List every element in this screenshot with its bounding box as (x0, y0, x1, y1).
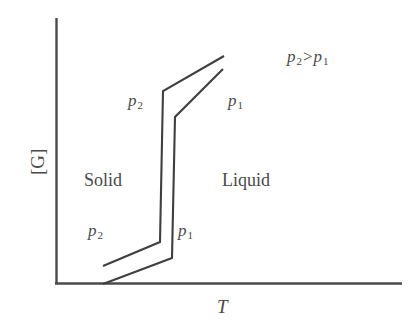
lower-p1-symbol: p (178, 221, 187, 240)
lower-p2-subscript: 2 (97, 229, 104, 241)
lower-p1-subscript: 1 (187, 229, 194, 241)
inequality-right-symbol: p (314, 47, 323, 66)
x-axis-title: T (217, 297, 228, 316)
inequality-right-subscript: 1 (322, 55, 329, 67)
plot-area (0, 0, 419, 331)
inequality-left-subscript: 2 (296, 55, 303, 67)
gibbs-energy-temperature-diagram: p2>p1 p2 p1 Solid Liquid p2 p1 [G] T (0, 0, 419, 331)
phase-label-liquid: Liquid (222, 171, 270, 189)
inequality-left-symbol: p (287, 47, 296, 66)
pressure-inequality-annotation: p2>p1 (287, 48, 329, 65)
curve-label-upper-p1: p1 (228, 92, 243, 109)
inequality-relation: > (302, 47, 314, 66)
upper-p1-subscript: 1 (237, 99, 244, 111)
phase-label-solid: Solid (84, 171, 122, 189)
curve-label-lower-p1: p1 (178, 222, 193, 239)
upper-p2-subscript: 2 (137, 99, 144, 111)
upper-p1-symbol: p (228, 91, 237, 110)
lower-p2-symbol: p (88, 221, 97, 240)
y-axis-title: [G] (28, 149, 47, 175)
curve-label-lower-p2: p2 (88, 222, 103, 239)
curve-label-upper-p2: p2 (128, 92, 143, 109)
upper-p2-symbol: p (128, 91, 137, 110)
